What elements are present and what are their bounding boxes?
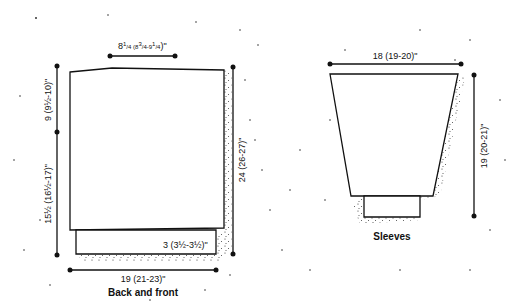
- endpoint-dot: [472, 214, 477, 219]
- endpoint-dot: [214, 268, 219, 273]
- endpoint-dot: [472, 73, 477, 78]
- endpoint-dot: [173, 54, 178, 59]
- endpoint-dot: [55, 64, 60, 69]
- bottom-width-label: 19 (21-23)": [121, 274, 166, 284]
- top-width-label: 81/4 (83/4-91/4)": [118, 41, 167, 51]
- endpoint-dot: [328, 62, 333, 67]
- endpoint-dot: [55, 130, 60, 135]
- endpoint-dot: [231, 65, 236, 70]
- back-and-front-caption: Back and front: [108, 287, 179, 298]
- endpoint-dot: [68, 268, 73, 273]
- sleeve-width-label: 18 (19-20)": [373, 51, 418, 61]
- schematic-diagram: 81/4 (83/4-91/4)" 9 (9½-10)" 15½ (16½-17…: [0, 0, 523, 307]
- endpoint-dot: [231, 252, 236, 257]
- sleeve-cuff: [364, 196, 420, 217]
- sleeve-length-label: 19 (20-21)": [479, 124, 489, 169]
- sleeves-caption: Sleeves: [373, 231, 411, 242]
- body-panel: [70, 68, 224, 230]
- total-length-label: 24 (26-27)": [237, 138, 247, 183]
- endpoint-dot: [459, 62, 464, 67]
- ribbing-height-label: 3 (3½-3½)": [163, 240, 208, 250]
- side-length-label: 15½ (16½-17)": [43, 164, 53, 224]
- endpoint-dot: [55, 253, 60, 258]
- armhole-depth-label: 9 (9½-10)": [43, 79, 53, 121]
- endpoint-dot: [108, 54, 113, 59]
